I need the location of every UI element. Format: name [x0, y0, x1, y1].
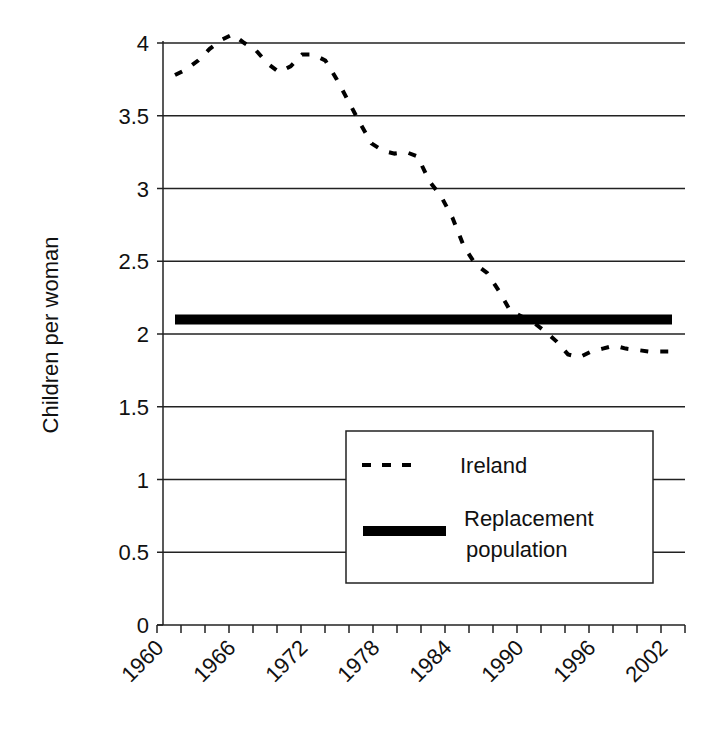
- legend: Ireland Replacement population: [346, 431, 653, 583]
- x-tick-label: 1984: [404, 635, 456, 687]
- x-tick-label: 1996: [548, 635, 600, 687]
- legend-replacement-label-line1: Replacement: [464, 506, 594, 531]
- x-tick-label: 1972: [260, 635, 312, 687]
- legend-replacement-label-line2: population: [466, 537, 568, 562]
- x-tick-label: 1990: [476, 635, 528, 687]
- y-tick-label: 4: [137, 31, 149, 56]
- x-tick-label: 1960: [116, 635, 168, 687]
- x-tick-label: 1978: [332, 635, 384, 687]
- y-tick-label: 0: [137, 613, 149, 638]
- y-axis-title: Children per woman: [38, 237, 63, 434]
- y-tick-label: 3.5: [118, 104, 149, 129]
- y-tick-label: 0.5: [118, 540, 149, 565]
- x-tick-label: 1966: [188, 635, 240, 687]
- fertility-line-chart: 00.511.522.533.54 1960196619721978198419…: [0, 0, 715, 739]
- x-tick-label: 2002: [620, 635, 672, 687]
- y-tick-label: 1.5: [118, 395, 149, 420]
- y-tick-label: 2: [137, 322, 149, 347]
- legend-ireland-label: Ireland: [460, 453, 527, 478]
- ireland-line: [175, 34, 672, 357]
- series-layer: [175, 34, 672, 357]
- y-axis: 00.511.522.533.54: [118, 31, 163, 638]
- y-tick-label: 1: [137, 468, 149, 493]
- x-axis: 19601966197219781984199019962002: [116, 625, 685, 687]
- y-tick-label: 3: [137, 177, 149, 202]
- y-tick-label: 2.5: [118, 249, 149, 274]
